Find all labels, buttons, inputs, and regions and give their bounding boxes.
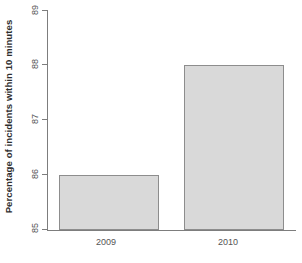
plot-area [47,10,296,230]
bar-chart: Percentage of incidents within 10 minute… [0,0,302,263]
bar-2009[interactable] [59,175,159,230]
y-axis-title-text: Percentage of incidents within 10 minute… [4,19,15,213]
y-tick-label-85: 85 [26,221,44,235]
bar-2010[interactable] [184,65,284,230]
x-axis-spine [47,230,296,231]
x-tick-label-2010: 2010 [198,236,258,248]
y-axis-title: Percentage of incidents within 10 minute… [0,0,18,232]
x-tick-label-2009: 2009 [76,236,136,248]
